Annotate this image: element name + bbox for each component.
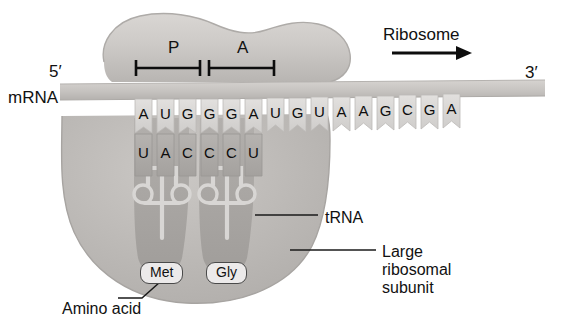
mrna-base: A [135,106,153,121]
anticodon-base: U [245,145,263,160]
small-ribosomal-subunit [103,14,350,82]
mrna-base: U [311,104,329,119]
mrna-base: A [355,103,373,118]
mrna-label: mRNA [8,88,58,107]
amino-acid-badge-met: Met [140,262,183,284]
mrna-base: U [157,106,175,121]
large-subunit-label-line2: ribosomal [382,261,451,279]
mrna-base: G [179,106,197,121]
ribosome-translation-illustration [0,0,561,334]
anticodon-base: C [223,145,241,160]
anticodon-base: U [135,145,153,160]
anticodon-base: C [201,145,219,160]
diagram-canvas: A U G G G A U G U A A G C G A U A C C C … [0,0,561,334]
mrna-base: G [223,106,241,121]
three-prime-label: 3′ [525,63,538,82]
anticodon-base: A [157,145,175,160]
large-subunit-label-line3: subunit [382,279,451,297]
mrna-base: G [377,103,395,118]
mrna-base: A [333,104,351,119]
mrna-base: G [201,106,219,121]
a-site-label: A [237,38,248,57]
mrna-base: A [245,106,263,121]
mrna-base: G [421,102,439,117]
ribosome-label: Ribosome [383,25,460,44]
five-prime-label: 5′ [49,62,62,81]
large-ribosomal-subunit-label: Large ribosomal subunit [382,243,451,297]
amino-acid-badge-gly: Gly [206,262,247,284]
mrna-base: A [443,101,461,116]
mrna-base: U [267,105,285,120]
mrna-base: C [399,102,417,117]
mrna-strand [60,80,545,100]
ribosome-direction-arrow [392,46,472,60]
mrna-base: G [289,105,307,120]
p-site-label: P [168,38,179,57]
anticodon-base: C [179,145,197,160]
amino-acid-label: Amino acid [62,300,141,318]
trna-label: tRNA [325,209,363,227]
large-subunit-label-line1: Large [382,243,451,261]
